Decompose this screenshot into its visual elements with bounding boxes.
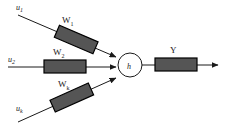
input-branch-2: u2 W2 [8, 47, 116, 73]
output-weight-box [155, 58, 197, 71]
output-branch: Y [142, 45, 218, 71]
output-label: Y [170, 45, 177, 55]
weight-box-2 [44, 60, 86, 73]
neuron-diagram: u1 W1 u2 W2 uk Wk h Y [0, 0, 228, 130]
input-branch-k: uk Wk [16, 78, 116, 122]
weight-box-k [50, 83, 94, 112]
input-1-label: u1 [16, 3, 23, 13]
neuron-label: h [127, 62, 131, 71]
weight-k-label: Wk [58, 79, 70, 91]
input-branch-1: u1 W1 [16, 3, 116, 57]
weight-1-label: W1 [62, 15, 74, 27]
neuron-diagram-canvas: u1 W1 u2 W2 uk Wk h Y [0, 0, 228, 130]
input-2-label: u2 [8, 55, 15, 65]
input-k-label: uk [16, 104, 23, 114]
neuron-node: h [118, 53, 142, 77]
weight-2-label: W2 [53, 47, 65, 59]
